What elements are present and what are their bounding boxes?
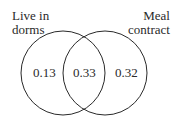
value-intersection: 0.33	[73, 66, 96, 80]
value-meal-only: 0.32	[115, 66, 138, 80]
set-label-live-in-dorms: Live in dorms	[12, 9, 49, 37]
set-label-meal-contract: Meal contract	[128, 9, 170, 37]
value-dorms-only: 0.13	[33, 66, 56, 80]
